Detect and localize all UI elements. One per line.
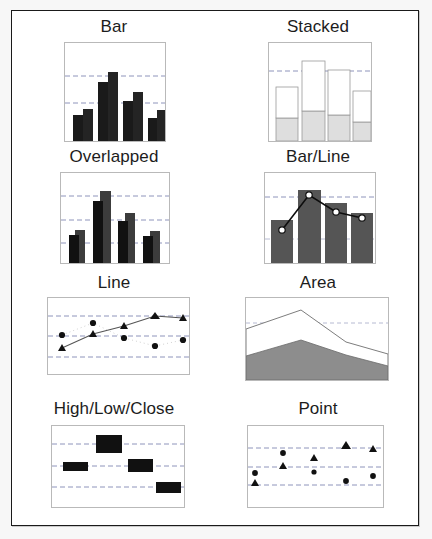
bar <box>123 101 133 141</box>
bar-segment-lower <box>302 111 325 141</box>
bar-segment-lower <box>353 122 371 141</box>
bar-front <box>118 221 128 263</box>
hlc-box <box>156 482 181 493</box>
marker-circle <box>280 450 286 456</box>
chart-svg-bar-line <box>265 173 375 263</box>
bar <box>157 110 165 141</box>
marker-triangle <box>341 441 351 449</box>
chart-cell-stacked[interactable]: Stacked <box>216 17 420 147</box>
chart-panel-overlapped <box>60 172 170 264</box>
bar <box>133 92 143 141</box>
line-series-triangles <box>62 316 183 348</box>
chart-cell-bar-line[interactable]: Bar/Line <box>216 147 420 275</box>
line-marker <box>333 209 339 215</box>
bar-segment-upper <box>276 87 298 118</box>
line-marker <box>359 215 365 221</box>
chart-panel-point <box>247 425 384 508</box>
chart-svg-high-low-close <box>52 426 184 507</box>
stacked-group <box>328 70 350 141</box>
bar-front <box>143 236 153 263</box>
chart-title-line: Line <box>12 273 216 293</box>
chart-title-high-low-close: High/Low/Close <box>12 399 216 419</box>
chart-svg-area <box>246 298 388 380</box>
chart-panel-bar <box>64 42 166 142</box>
chart-svg-stacked <box>269 43 371 141</box>
line-series <box>282 195 362 230</box>
marker-triangle <box>279 462 287 469</box>
bar-segment-upper <box>302 61 325 111</box>
bar <box>73 115 83 141</box>
bar-segment-lower <box>328 115 350 141</box>
marker-triangle <box>251 479 259 486</box>
chart-panel-high-low-close <box>51 425 185 508</box>
bar <box>83 109 93 141</box>
chart-panel-area <box>245 297 389 381</box>
chart-panel-stacked <box>268 42 372 142</box>
chart-panel-bar-line <box>264 172 376 264</box>
bar-segment-upper <box>328 70 350 115</box>
line-marker <box>279 227 285 233</box>
stacked-group <box>276 87 298 141</box>
chart-cell-overlapped[interactable]: Overlapped <box>12 147 216 275</box>
marker-circle <box>180 337 186 343</box>
marker-circle <box>311 469 316 474</box>
hlc-box <box>63 462 88 471</box>
chart-panel-line <box>47 297 190 375</box>
chart-title-bar-line: Bar/Line <box>216 147 420 167</box>
marker-circle <box>90 320 96 326</box>
marker-triangle <box>58 344 66 351</box>
bar-front <box>93 201 103 263</box>
hlc-box <box>96 435 122 453</box>
chart-cell-line[interactable]: Line <box>12 273 216 399</box>
marker-circle <box>343 478 349 484</box>
marker-circle <box>152 343 158 349</box>
chart-gallery-frame: Bar <box>11 10 419 526</box>
chart-svg-overlapped <box>61 173 169 263</box>
chart-title-point: Point <box>216 399 420 419</box>
bar <box>98 82 108 141</box>
bar-segment-upper <box>353 91 371 122</box>
bar-segment-lower <box>276 118 298 141</box>
bar <box>108 72 118 141</box>
chart-svg-line <box>48 298 189 374</box>
bar <box>148 118 157 141</box>
marker-circle <box>252 470 258 476</box>
chart-title-overlapped: Overlapped <box>12 147 216 167</box>
marker-triangle <box>150 312 160 319</box>
chart-title-area: Area <box>216 273 420 293</box>
chart-svg-point <box>248 426 383 507</box>
page-background: Bar <box>0 0 432 539</box>
marker-circle <box>370 473 376 479</box>
chart-cell-high-low-close[interactable]: High/Low/Close <box>12 399 216 523</box>
stacked-group <box>302 61 325 141</box>
chart-grid: Bar <box>12 11 418 525</box>
chart-title-bar: Bar <box>12 17 216 37</box>
stacked-group <box>353 91 371 141</box>
marker-circle <box>121 335 127 341</box>
chart-svg-bar <box>65 43 165 141</box>
chart-cell-bar[interactable]: Bar <box>12 17 216 147</box>
chart-cell-area[interactable]: Area <box>216 273 420 399</box>
chart-title-stacked: Stacked <box>216 17 420 37</box>
marker-triangle <box>310 454 318 461</box>
marker-circle <box>59 332 65 338</box>
line-marker <box>306 192 312 198</box>
chart-cell-point[interactable]: Point <box>216 399 420 523</box>
hlc-box <box>128 459 153 472</box>
bar-front <box>69 235 79 263</box>
